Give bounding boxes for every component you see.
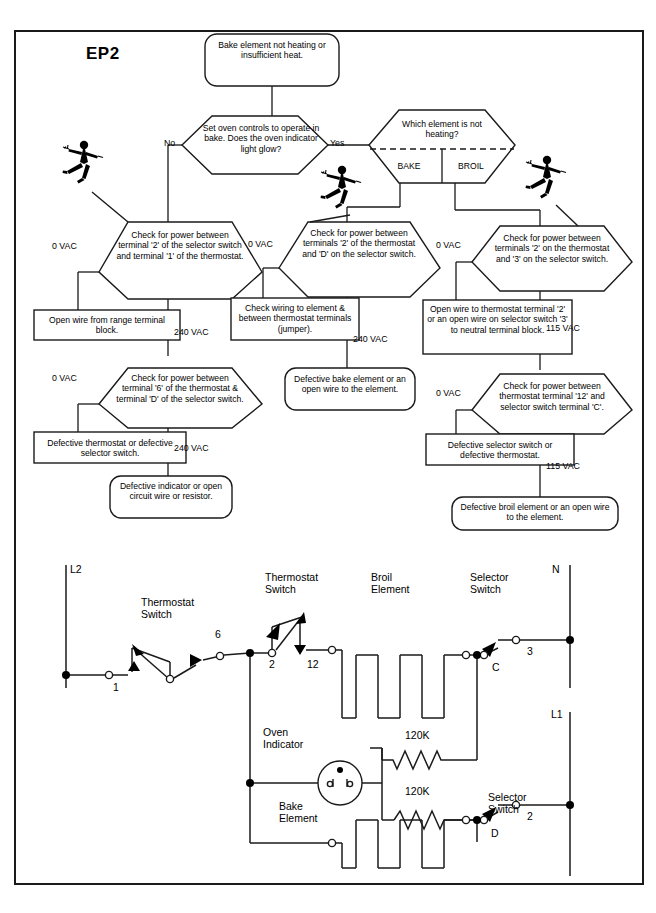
flow-outcome-o6: Defective indicator or open circuit wire…	[114, 481, 228, 502]
flow-outcome-o8: Defective broil element or an open wire …	[456, 502, 614, 523]
rail-label-L1: L1	[551, 708, 563, 720]
diagram-page: EP2	[0, 0, 656, 913]
rail-label-N: N	[552, 563, 560, 575]
flow-outcome-o3: Open wire to thermostat terminal '2' or …	[426, 304, 569, 335]
component-label-selector-switch-bottom: Selector Switch	[488, 791, 548, 815]
terminal-number-1: 1	[113, 681, 119, 693]
flow-decision-d2: Which element is not heating?	[385, 119, 499, 140]
flow-option-broil: BROIL	[443, 161, 499, 171]
terminal-label-C: C	[492, 661, 500, 673]
resistor-label-120k-bottom: 120K	[405, 785, 430, 797]
flowchart-frame	[14, 30, 644, 558]
flow-option-bake: BAKE	[382, 161, 436, 171]
resistor-label-120k-top: 120K	[405, 729, 430, 741]
terminal-number-2-bottom: 2	[527, 810, 533, 822]
flow-decision-d6: Check for power between terminal '6' of …	[116, 373, 244, 404]
component-label-thermostat-switch-1: Thermostat Switch	[141, 596, 213, 620]
circuit-frame	[14, 553, 644, 885]
flow-label-d5-0vac: 0 VAC	[436, 240, 461, 250]
flow-label-d3-240vac: 240 VAC	[174, 327, 209, 337]
flow-decision-d3: Check for power between terminal '2' of …	[116, 230, 244, 261]
flow-label-d4-240vac: 240 VAC	[353, 334, 388, 344]
flow-outcome-o7: Defective selector switch or defective t…	[430, 440, 570, 461]
rail-label-L2: L2	[70, 563, 82, 575]
terminal-number-3: 3	[527, 645, 533, 657]
flow-label-d3-0vac: 0 VAC	[52, 241, 77, 251]
flow-outcome-o1: Open wire from range terminal block.	[38, 315, 176, 336]
page-title: EP2	[86, 44, 120, 64]
component-label-bake-element: Bake Element	[279, 800, 335, 824]
flow-label-d4-0vac: 0 VAC	[248, 239, 273, 249]
flow-branch-yes: Yes	[330, 138, 344, 148]
flow-outcome-o4: Defective bake element or an open wire t…	[289, 374, 411, 395]
component-label-oven-indicator: Oven Indicator	[263, 726, 327, 750]
component-label-selector-switch-top: Selector Switch	[470, 571, 530, 595]
terminal-number-6: 6	[215, 628, 221, 640]
flow-label-d7-115vac: 115 VAC	[546, 461, 580, 471]
flow-branch-no: No	[164, 138, 175, 148]
flow-decision-d7: Check for power between thermostat termi…	[489, 381, 615, 412]
flow-decision-d5: Check for power between terminals '2' on…	[489, 233, 615, 264]
terminal-label-D: D	[491, 827, 499, 839]
flow-label-d6-0vac: 0 VAC	[52, 373, 77, 383]
terminal-number-2: 2	[269, 658, 275, 670]
flow-decision-d1: Set oven controls to operate in bake. Do…	[197, 123, 325, 154]
flow-outcome-o2: Check wiring to element & between thermo…	[234, 303, 356, 334]
component-label-thermostat-switch-2: Thermostat Switch	[265, 571, 337, 595]
flow-start-node: Bake element not heating or insufficient…	[208, 40, 336, 61]
terminal-number-12: 12	[307, 658, 319, 670]
flow-label-d7-0vac: 0 VAC	[436, 388, 461, 398]
flow-outcome-o5: Defective thermostat or defective select…	[38, 438, 182, 459]
flow-decision-d4: Check for power between terminals '2' of…	[297, 228, 421, 259]
component-label-broil-element: Broil Element	[371, 571, 427, 595]
